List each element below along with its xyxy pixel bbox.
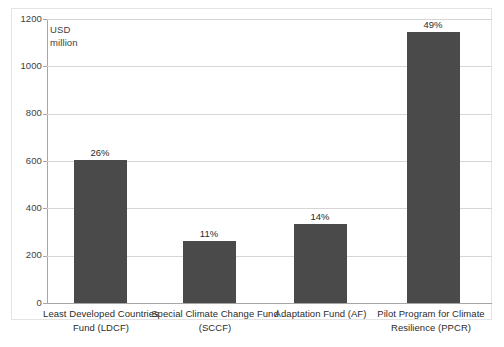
category-label-ppcr-line-2: Resilience (PPCR) (370, 321, 492, 335)
y-tick-label-800: 800 (26, 108, 42, 118)
data-label-ldcf: 26% (60, 147, 140, 158)
bar-ppcr[interactable] (407, 32, 460, 303)
data-label-sccf: 11% (169, 228, 249, 239)
y-tick-label-200: 200 (26, 250, 42, 260)
bar-af[interactable] (294, 224, 347, 303)
data-label-ppcr: 49% (393, 19, 473, 30)
y-tick-label-1000: 1000 (20, 61, 42, 71)
bar-sccf[interactable] (183, 241, 236, 303)
y-tick-label-400: 400 (26, 203, 42, 213)
y-tick-label-1200: 1200 (20, 14, 42, 24)
bar-chart-figure: 1200 1000 800 600 400 200 0 USD million … (0, 0, 504, 347)
bar-ldcf[interactable] (74, 160, 127, 303)
category-label-af: Adaptation Fund (AF) (264, 307, 377, 321)
y-tick-label-600: 600 (26, 156, 42, 166)
category-label-af-line-1: Adaptation Fund (AF) (264, 307, 377, 321)
data-label-af: 14% (280, 211, 360, 222)
category-label-sccf-line-2: (SCCF) (145, 321, 285, 335)
category-label-ppcr-line-1: Pilot Program for Climate (370, 307, 492, 321)
x-axis-baseline (47, 303, 492, 304)
plot-area: 26% 11% 14% 49% (47, 19, 492, 303)
y-axis-tick-labels: 1200 1000 800 600 400 200 0 (0, 0, 42, 347)
x-axis-category-labels: Least Developed Countries Fund (LDCF) Sp… (0, 307, 504, 347)
category-label-ppcr: Pilot Program for Climate Resilience (PP… (370, 307, 492, 334)
